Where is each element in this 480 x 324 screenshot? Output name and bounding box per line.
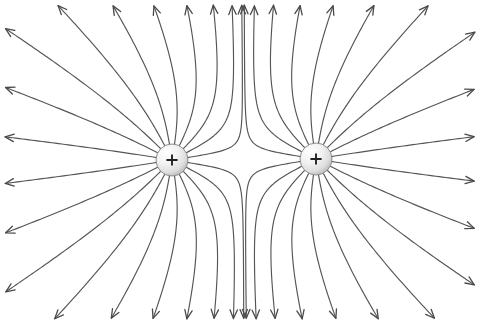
field-line	[185, 167, 234, 319]
field-line	[330, 161, 474, 181]
field-line	[179, 173, 197, 319]
field-line	[326, 169, 474, 285]
field-arrowhead	[113, 6, 121, 15]
field-line	[326, 32, 475, 149]
charges-group	[156, 143, 332, 176]
left-positive-charge	[156, 144, 188, 176]
arrowheads-group	[5, 5, 475, 319]
field-line	[185, 6, 234, 154]
field-line	[254, 166, 303, 319]
field-line	[292, 172, 310, 319]
field-arrowhead	[6, 284, 15, 292]
field-arrowhead	[371, 309, 379, 318]
field-line	[5, 162, 158, 183]
field-line	[6, 29, 162, 150]
field-arrowhead	[366, 6, 374, 15]
electric-field-figure	[0, 0, 480, 324]
field-line	[5, 137, 158, 158]
field-arrowhead	[6, 29, 15, 37]
field-line	[318, 173, 378, 318]
field-line	[330, 137, 474, 157]
field-line	[311, 173, 336, 318]
field-line	[6, 87, 160, 153]
field-arrowhead	[465, 277, 474, 285]
field-line	[6, 170, 162, 292]
field-line-canvas	[0, 0, 480, 324]
field-line	[292, 6, 310, 146]
right-positive-charge	[300, 143, 332, 175]
field-arrowhead	[111, 309, 119, 318]
field-line	[179, 6, 197, 148]
field-lines-group	[5, 5, 475, 319]
field-arrowhead	[466, 32, 475, 40]
field-line	[6, 167, 159, 233]
field-line	[246, 161, 302, 318]
